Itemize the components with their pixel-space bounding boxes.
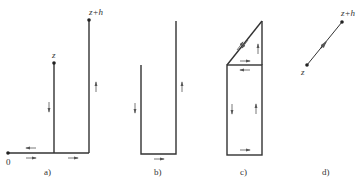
arrow-diag-up-icon bbox=[321, 42, 326, 48]
panel-c: c) bbox=[227, 21, 262, 177]
diagonal bbox=[227, 21, 262, 65]
caption-b: b) bbox=[154, 167, 162, 177]
z-plus-h-label: z+h bbox=[88, 7, 104, 17]
diagram-canvas: 0 z z+h a) b) c) z z+h d) bbox=[0, 0, 361, 182]
z-label: z bbox=[51, 50, 56, 60]
origin-label: 0 bbox=[6, 157, 11, 167]
panel-a: 0 z z+h a) bbox=[6, 7, 104, 177]
z-label: z bbox=[300, 67, 305, 77]
caption-c: c) bbox=[240, 167, 247, 177]
origin-point bbox=[6, 151, 10, 155]
u-path bbox=[141, 21, 176, 154]
point-z bbox=[52, 61, 56, 65]
z-plus-h-label: z+h bbox=[340, 8, 356, 18]
caption-d: d) bbox=[322, 167, 330, 177]
panel-b: b) bbox=[135, 21, 182, 177]
caption-a: a) bbox=[44, 167, 51, 177]
point-z-plus-h bbox=[87, 18, 91, 22]
panel-d: z z+h d) bbox=[300, 8, 356, 177]
point-z bbox=[305, 63, 309, 67]
point-z-plus-h bbox=[340, 20, 344, 24]
